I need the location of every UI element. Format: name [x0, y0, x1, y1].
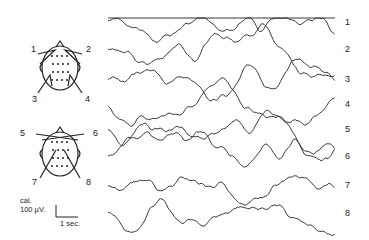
eeg-trace-2: [108, 24, 335, 78]
calibration-title: cal.: [20, 197, 32, 205]
channel-label-8: 8: [345, 209, 350, 218]
montage-label-8: 8: [86, 178, 91, 187]
eeg-trace-7: [108, 176, 335, 206]
head-diagram-top: [38, 41, 82, 93]
montage-label-2: 2: [86, 45, 91, 54]
eeg-figure: 1 2 3 4 5 6 7 8 cal. 100 µV. 1 sec. 1 2 …: [0, 0, 369, 240]
calibration-amplitude: 100 µV.: [20, 206, 45, 214]
montage-label-3: 3: [32, 95, 37, 104]
calibration-bar: [56, 205, 78, 217]
eeg-trace-1: [108, 18, 335, 42]
eeg-trace-6: [108, 132, 335, 168]
electrode-dots-top: [51, 55, 69, 81]
eeg-trace-4: [108, 78, 335, 126]
eeg-trace-8: [108, 199, 335, 236]
montage-label-1: 1: [31, 45, 36, 54]
calibration-time: 1 sec.: [60, 220, 80, 228]
channel-label-1: 1: [345, 18, 350, 27]
channel-label-4: 4: [345, 100, 350, 109]
channel-label-5: 5: [345, 125, 350, 134]
channel-label-3: 3: [345, 75, 350, 84]
channel-label-2: 2: [345, 45, 350, 54]
channel-label-7: 7: [345, 181, 350, 190]
montage-label-4: 4: [85, 95, 90, 104]
eeg-traces: [108, 18, 335, 236]
channel-label-6: 6: [345, 152, 350, 161]
head-diagram-bottom: [36, 127, 84, 178]
montage-label-6: 6: [93, 129, 98, 138]
eeg-trace-3: [108, 59, 335, 101]
montage-label-7: 7: [32, 178, 37, 187]
montage-label-5: 5: [20, 129, 25, 138]
eeg-figure-graphics: [0, 0, 369, 240]
